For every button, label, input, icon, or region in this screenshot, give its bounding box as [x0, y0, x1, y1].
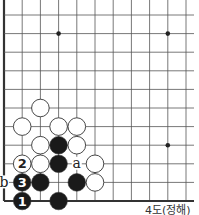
- black-stone: [50, 136, 68, 154]
- white-stone: [32, 155, 50, 173]
- white-stone: [13, 118, 31, 136]
- black-stone: 3: [13, 174, 31, 192]
- black-stone: [50, 155, 68, 173]
- marker-a: a: [72, 155, 82, 171]
- white-stone: [32, 99, 50, 117]
- white-stone: [86, 155, 104, 173]
- svg-text:b: b: [0, 174, 9, 190]
- white-stone: [50, 118, 68, 136]
- move-number: 2: [18, 156, 27, 171]
- white-stone: [32, 136, 50, 154]
- move-number: 3: [18, 175, 27, 190]
- white-stone: [68, 136, 86, 154]
- white-stone: 2: [13, 155, 31, 173]
- star-point: [166, 143, 171, 148]
- star-point: [166, 31, 171, 36]
- white-stone: [86, 174, 104, 192]
- diagram-caption: 4도(정해): [145, 205, 191, 215]
- go-board: 231 ab: [0, 0, 199, 215]
- star-point: [56, 31, 61, 36]
- black-stone: [50, 192, 68, 210]
- marker-b: b: [0, 174, 9, 190]
- move-number: 1: [18, 194, 27, 209]
- black-stone: [68, 174, 86, 192]
- white-stone: [68, 118, 86, 136]
- black-stone: 1: [13, 192, 31, 210]
- svg-text:a: a: [73, 155, 81, 171]
- black-stone: [32, 174, 50, 192]
